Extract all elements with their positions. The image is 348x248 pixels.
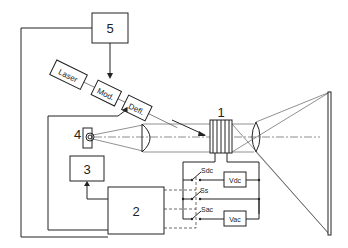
projection-screen [328,92,331,235]
block-2: 2 [108,187,164,234]
vdc-label: Vdc [229,177,242,184]
wire-5-to-2 [21,28,108,237]
laser-block: Laser [50,60,88,89]
switch-sac [192,211,201,219]
arrow-head-mod [107,73,113,79]
element-4-label: 4 [74,127,81,142]
block-3-label: 3 [83,162,90,177]
arrow-head-3 [84,181,90,186]
source-holder [83,128,92,148]
mod-block: Mod. [91,80,121,106]
arrow-head-beam [198,131,206,136]
laser-chain: Laser Mod. Defl. [50,60,181,135]
block-2-label: 2 [132,204,139,219]
element-1-cell [210,120,232,153]
sac-label: Sac [201,206,214,213]
light-source-icon [86,133,94,141]
sdc-label: Sdc [201,167,214,174]
block-3: 3 [70,156,104,181]
vdc-block: Vdc [224,172,246,187]
diagram-canvas: 5 Laser Mod. Defl. 4 3 [0,0,348,248]
switch-sdc [192,172,201,180]
ss-label: Ss [200,187,209,194]
block-5-label: 5 [106,21,113,36]
switch-control-link [164,176,196,228]
vac-label: Vac [229,216,241,223]
vac-block: Vac [224,211,246,226]
element-1-label: 1 [217,105,224,120]
condenser-lens [142,124,150,152]
block-5: 5 [92,13,128,43]
